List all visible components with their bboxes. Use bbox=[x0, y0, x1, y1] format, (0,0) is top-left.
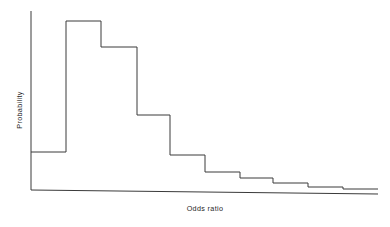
x-axis-line bbox=[31, 190, 378, 194]
y-axis-label: Probability bbox=[15, 91, 24, 128]
plot-canvas: Probability Odds ratio bbox=[0, 0, 390, 227]
x-axis-label: Odds ratio bbox=[187, 204, 224, 213]
histogram-step-outline bbox=[31, 21, 378, 189]
chart-figure: Probability Odds ratio bbox=[0, 0, 390, 227]
